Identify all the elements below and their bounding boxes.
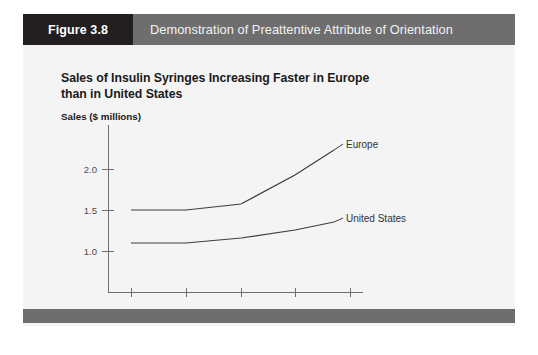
series-line-united-states [131, 222, 334, 243]
figure-header-bar: Figure 3.8 Demonstration of Preattentive… [23, 14, 515, 45]
figure-caption-block: Demonstration of Preattentive Attribute … [133, 14, 515, 45]
series-line-europe [131, 150, 334, 210]
line-chart-plot: 2.0 1.5 1.0 Europe United States 2017 20… [23, 45, 515, 297]
series-label-europe: Europe [346, 139, 379, 150]
figure-card: Figure 3.8 Demonstration of Preattentive… [23, 14, 515, 326]
y-tick-label-1-5: 1.5 [84, 205, 97, 216]
chart-body: Sales of Insulin Syringes Increasing Fas… [23, 45, 515, 297]
y-tick-label-2-0: 2.0 [84, 164, 97, 175]
figure-number-block: Figure 3.8 [23, 14, 133, 45]
series-leader-line-united-states [334, 218, 343, 222]
figure-number-label: Figure 3.8 [48, 23, 108, 37]
figure-footer-band [23, 309, 515, 323]
y-tick-label-1-0: 1.0 [84, 246, 97, 257]
series-label-united-states: United States [346, 213, 406, 224]
series-leader-line-europe [334, 144, 343, 150]
figure-caption-text: Demonstration of Preattentive Attribute … [150, 22, 453, 37]
